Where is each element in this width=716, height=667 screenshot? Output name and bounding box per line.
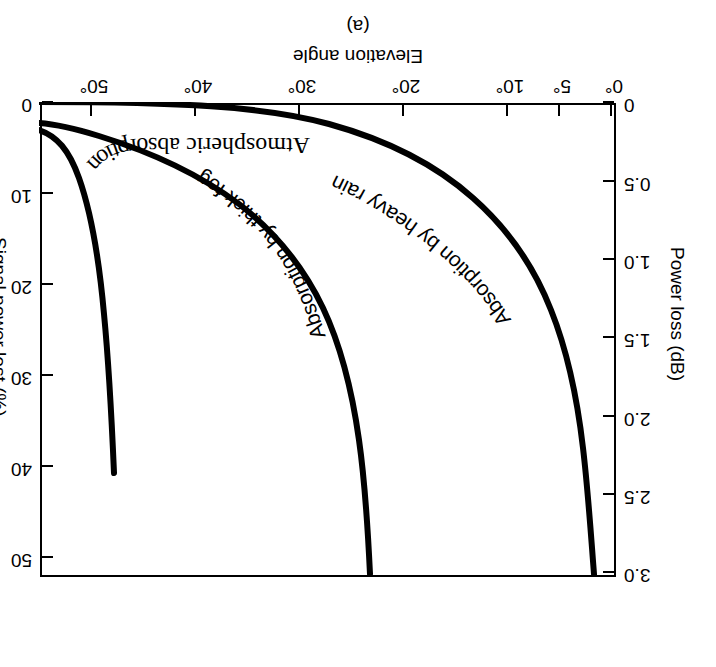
y-tick-label-2_5: 2.5	[624, 486, 668, 508]
plot-frame: Absorption by heavy rain Absorption by t…	[40, 103, 616, 577]
y-tick-label-0: 0	[624, 94, 668, 116]
x-tick-label-10: 10°	[496, 75, 525, 97]
y2-tick-label-50: 50	[11, 549, 32, 571]
y-tick-label-3_0: 3.0	[624, 564, 668, 586]
y2-tick-label-10: 10	[11, 185, 32, 207]
x-tick-label-5: 5°	[553, 75, 571, 97]
y-tick-label-0_5: 0.5	[624, 173, 668, 195]
y2-tick-label-0: 0	[21, 94, 32, 116]
y2-axis-title: Signal power lost (%)	[0, 237, 10, 417]
y2-tick-label-40: 40	[11, 458, 32, 480]
figure-absorption-vs-elevation-angle: Absorption by heavy rain Absorption by t…	[0, 0, 716, 667]
figure-caption: (a)	[0, 15, 716, 37]
curve-label-atmospheric-absorption: Atmospheric absorption	[82, 133, 310, 177]
curve-atmospheric-absorption	[39, 130, 114, 473]
x-axis-title: Elevation angle	[0, 45, 716, 67]
x-tick-label-0: 0°	[605, 75, 623, 97]
curve-label-absorption-by-thick-fog: Absorption by thick fog	[192, 167, 329, 342]
x-tick-label-20: 20°	[392, 75, 421, 97]
y-tick-label-2_0: 2.0	[624, 408, 668, 430]
curves-layer: Absorption by heavy rain Absorption by t…	[39, 102, 615, 576]
figure-rotation-wrapper: Absorption by heavy rain Absorption by t…	[0, 0, 716, 667]
y-tick-label-1_0: 1.0	[624, 251, 668, 273]
x-tick-label-30: 30°	[288, 75, 317, 97]
y-tick-label-1_5: 1.5	[624, 329, 668, 351]
y-axis-title: Power loss (dB)	[666, 247, 688, 381]
curve-label-absorption-by-heavy-rain: Absorption by heavy rain	[327, 171, 515, 330]
y2-tick-label-30: 30	[11, 367, 32, 389]
x-tick-label-40: 40°	[184, 75, 213, 97]
x-tick-label-50: 50°	[80, 75, 109, 97]
y2-tick-label-20: 20	[11, 276, 32, 298]
